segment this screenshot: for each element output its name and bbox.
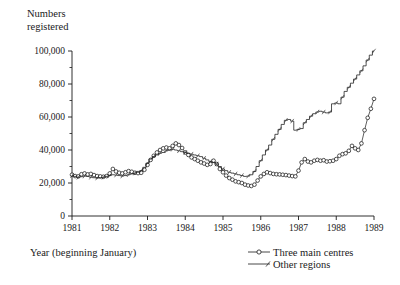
axes-lines	[72, 51, 374, 216]
x-tick-label: 1984	[176, 223, 195, 233]
y-tick-label: 0	[60, 211, 65, 221]
x-tick-label: 1981	[63, 223, 82, 233]
chart-figure: Numbers registered Year (beginning Janua…	[0, 0, 400, 285]
chart-plot: 020,00040,00060,00080,000100,000 1981198…	[0, 0, 400, 285]
x-tick-label: 1982	[100, 223, 119, 233]
y-axis-ticks: 020,00040,00060,00080,000100,000	[34, 46, 72, 221]
x-tick-label: 1983	[138, 223, 157, 233]
x-axis-ticks: 198119821983198419851986198719881989	[63, 216, 384, 233]
series-three-main-centres	[70, 97, 376, 188]
x-tick-label: 1988	[327, 223, 346, 233]
y-tick-label: 80,000	[39, 79, 65, 89]
legend-markers	[248, 250, 270, 267]
y-tick-label: 20,000	[39, 178, 65, 188]
x-tick-label: 1989	[365, 223, 384, 233]
x-tick-label: 1987	[289, 223, 308, 233]
x-tick-label: 1985	[214, 223, 233, 233]
data-series	[70, 49, 376, 188]
y-tick-label: 60,000	[39, 112, 65, 122]
y-tick-label: 100,000	[34, 46, 65, 56]
legend-box	[242, 244, 380, 272]
y-tick-label: 40,000	[39, 145, 65, 155]
x-tick-label: 1986	[251, 223, 270, 233]
